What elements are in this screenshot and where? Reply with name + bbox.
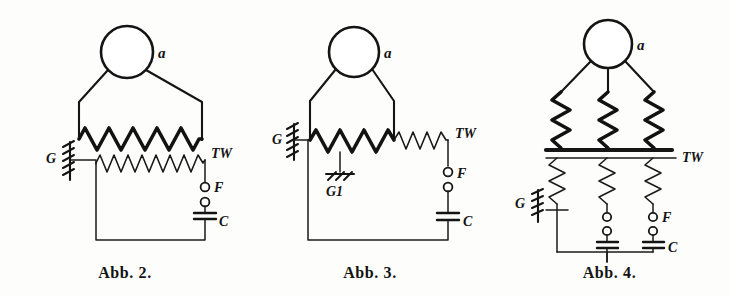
spark-gap — [201, 183, 210, 207]
ground-label: G — [515, 196, 525, 211]
tesla-winding-label: TW — [211, 146, 234, 161]
secondary-coil-left — [549, 158, 565, 204]
figure-abb-4: a TW G — [490, 0, 729, 296]
figure-caption: Abb. 2. — [0, 264, 250, 282]
primary-coil — [79, 128, 202, 150]
capacitor-label: C — [463, 214, 473, 229]
primary-coil-left — [552, 92, 570, 148]
spark-gap — [444, 168, 453, 192]
figure-abb-2: a G TW — [0, 0, 250, 296]
antenna-label: a — [158, 45, 166, 61]
primary-coil — [310, 130, 394, 152]
spark-gap-right — [649, 213, 657, 235]
ground-tap-symbol — [326, 152, 354, 180]
secondary-coil-middle — [599, 158, 615, 204]
ground-symbol — [287, 123, 298, 160]
ground-label: G — [46, 151, 56, 166]
primary-coil-middle — [599, 92, 617, 148]
spark-gap-label: F — [456, 166, 467, 181]
ground-label: G — [272, 132, 282, 147]
primary-coil-right — [645, 92, 663, 148]
capacitor-label: C — [668, 240, 678, 255]
antenna-label: a — [637, 37, 645, 53]
figure-plate: a G TW — [0, 0, 729, 296]
antenna-leg-right — [625, 61, 654, 92]
return-wire — [96, 163, 205, 240]
figure-caption: Abb. 3. — [250, 264, 490, 282]
ground-symbol — [532, 189, 543, 222]
antenna-leg-left — [561, 61, 591, 92]
ground-tap-label: G1 — [326, 184, 343, 199]
spark-gap-label: F — [213, 180, 224, 195]
figure-abb-3: a TW G — [250, 0, 490, 296]
antenna-leg-right — [372, 69, 394, 140]
spark-gap-middle — [603, 213, 611, 235]
capacitor-label: C — [219, 214, 229, 229]
tesla-winding-label: TW — [455, 126, 478, 141]
antenna-label: a — [384, 45, 392, 61]
antenna-leg-left — [310, 69, 336, 140]
figure-caption: Abb. 4. — [490, 264, 729, 282]
secondary-coil — [394, 132, 448, 149]
tesla-winding-label: TW — [682, 150, 705, 165]
secondary-coil-right — [645, 158, 661, 204]
secondary-coil — [96, 155, 205, 172]
spark-gap-label: F — [661, 210, 672, 225]
